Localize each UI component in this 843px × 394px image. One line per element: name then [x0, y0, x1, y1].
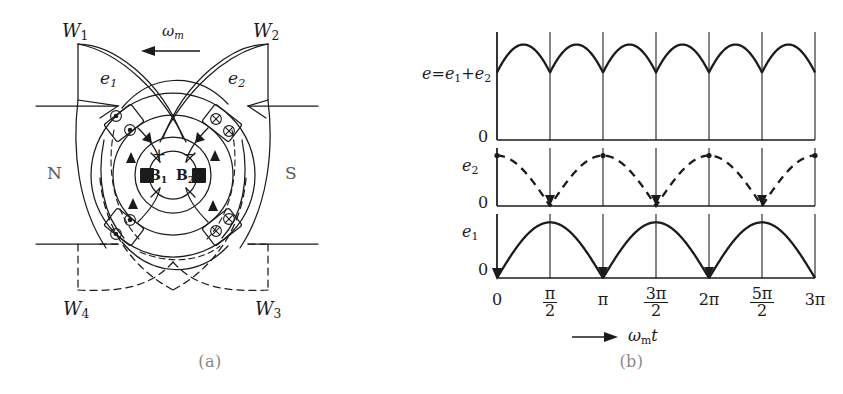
zero-label-top: 0 — [478, 129, 488, 145]
node-marker — [651, 195, 661, 206]
rotation-speed-label: ωm — [162, 24, 184, 41]
brush-polarity-plus: + — [152, 146, 166, 163]
x-axis-direction-arrow-icon — [572, 330, 620, 344]
zero-label-middle: 0 — [478, 195, 488, 211]
zero-label-bottom: 0 — [478, 262, 488, 278]
panel-a-machine-diagram: W1 W2 W3 W4 e1 e2 N S ωm + − B1 — [0, 0, 420, 394]
peak-marker — [706, 153, 711, 158]
emf-label-e1: e1 — [100, 70, 117, 90]
peak-marker — [812, 153, 817, 158]
figure-root: W1 W2 W3 W4 e1 e2 N S ωm + − B1 — [0, 0, 843, 394]
node-marker — [545, 195, 555, 206]
winding-label-w4: W4 — [63, 300, 89, 321]
rotation-direction-arrow-icon — [140, 44, 202, 58]
pole-label-south: S — [285, 165, 297, 182]
winding-label-w1: W1 — [62, 22, 88, 43]
pole-label-north: N — [47, 165, 62, 182]
brush-polarity-minus: − — [182, 146, 196, 163]
coil-connection-leads — [101, 80, 245, 269]
hidden-winding-paths — [111, 130, 235, 260]
x-axis-label: ωmt — [628, 328, 658, 347]
winding-label-w3: W3 — [255, 300, 281, 321]
winding-label-w2: W2 — [253, 22, 279, 43]
panel-a-caption: (a) — [0, 352, 420, 371]
series-label-e-sum: e=e1+e2 — [422, 66, 491, 85]
pole-frame-outline-dashed — [78, 178, 268, 290]
x-tick-label-0: 0 — [475, 292, 519, 308]
x-tick-label-4: 2π — [687, 292, 731, 308]
x-tick-label-6: 3π — [793, 292, 837, 308]
panel-b-waveform-chart: e=e1+e2 0 e2 0 e1 0 0π2π3π22π5π23π ωmt (… — [420, 0, 843, 394]
x-tick-label-3: 3π2 — [634, 286, 678, 320]
x-tick-label-1: π2 — [528, 286, 572, 320]
peak-marker — [494, 153, 499, 158]
brush-label-b2: B2 — [176, 168, 194, 184]
brush-label-b1: B1 — [149, 168, 167, 184]
vertical-gridlines — [497, 32, 815, 278]
machine-schematic-svg — [0, 0, 420, 394]
series-label-e1: e1 — [462, 224, 478, 243]
x-tick-label-5: 5π2 — [740, 286, 784, 320]
peak-marker — [600, 153, 605, 158]
emf-label-e2: e2 — [228, 70, 245, 90]
x-tick-label-2: π — [581, 292, 625, 308]
series-label-e2: e2 — [462, 158, 478, 177]
panel-b-caption: (b) — [420, 352, 843, 371]
